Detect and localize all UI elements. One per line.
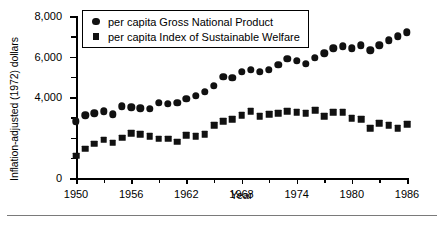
data-point: [265, 66, 272, 73]
data-point: [146, 105, 153, 112]
data-point: [192, 133, 199, 140]
data-point: [238, 68, 245, 75]
y-axis-major-tick: 8,000: [70, 16, 76, 18]
x-axis-minor-tick: [159, 178, 160, 183]
data-point: [404, 121, 411, 128]
x-axis-major-tick: [352, 178, 354, 184]
y-axis-minor-tick: [71, 77, 76, 78]
data-point: [385, 122, 392, 129]
data-point: [376, 42, 383, 49]
data-point: [257, 113, 264, 120]
x-axis-minor-tick: [269, 178, 270, 183]
data-point: [357, 42, 364, 49]
data-point: [82, 145, 89, 152]
data-point: [201, 88, 208, 95]
data-point: [219, 73, 226, 80]
x-axis-minor-tick: [214, 178, 215, 183]
legend-circle-icon: [89, 18, 103, 25]
y-axis-major-tick: 6,000: [70, 57, 76, 59]
data-point: [211, 122, 218, 129]
data-point: [266, 111, 273, 118]
y-axis-minor-tick: [71, 36, 76, 37]
y-axis-tick-label: 0: [56, 172, 62, 184]
data-point: [303, 110, 310, 117]
data-point: [100, 136, 107, 143]
data-point: [395, 125, 402, 132]
data-point: [118, 102, 125, 109]
data-point: [358, 116, 365, 123]
data-point: [367, 47, 374, 54]
y-axis-tick-label: 6,000: [34, 51, 62, 63]
footer-divider: [7, 215, 437, 216]
chart-legend: per capita Gross National Product per ca…: [82, 10, 309, 48]
data-point: [339, 43, 346, 50]
legend-item: per capita Gross National Product: [89, 14, 300, 29]
data-point: [312, 107, 319, 114]
data-point: [72, 118, 79, 125]
y-axis-major-tick: 4,000: [70, 97, 76, 99]
data-point: [109, 139, 116, 146]
data-point: [100, 107, 107, 114]
y-axis-tick-label: 4,000: [34, 91, 62, 103]
data-point: [119, 134, 126, 141]
data-point: [339, 109, 346, 116]
data-point: [302, 60, 309, 67]
data-point: [91, 109, 98, 116]
y-axis-title: Inflation-adjusted (1972) dollars: [4, 16, 24, 202]
data-point: [174, 138, 181, 145]
data-point: [349, 115, 356, 122]
data-point: [128, 130, 135, 137]
chart-figure: Inflation-adjusted (1972) dollars 04,000…: [0, 0, 444, 227]
data-point: [330, 109, 337, 116]
data-point: [376, 120, 383, 127]
x-axis-major-tick: [407, 178, 409, 184]
data-point: [183, 95, 190, 102]
data-point: [73, 152, 80, 159]
data-point: [155, 135, 162, 142]
data-point: [137, 131, 144, 138]
data-point: [284, 108, 291, 115]
legend-square-icon: [89, 33, 103, 40]
data-point: [183, 132, 190, 139]
data-point: [275, 61, 282, 68]
data-point: [173, 99, 180, 106]
data-point: [367, 125, 374, 132]
x-axis-minor-tick: [379, 178, 380, 183]
data-point: [403, 28, 410, 35]
data-point: [275, 110, 282, 117]
x-axis-title: Year: [76, 189, 407, 201]
data-point: [201, 131, 208, 138]
data-point: [385, 37, 392, 44]
data-point: [192, 92, 199, 99]
y-axis-tick-label: 8,000: [34, 10, 62, 22]
x-axis-minor-tick: [104, 178, 105, 183]
data-point: [311, 54, 318, 61]
y-axis-minor-tick: [71, 138, 76, 139]
data-point: [146, 133, 153, 140]
data-point: [91, 140, 98, 147]
data-point: [81, 112, 88, 119]
data-point: [155, 99, 162, 106]
data-point: [293, 109, 300, 116]
data-point: [238, 112, 245, 119]
legend-item: per capita Index of Sustainable Welfare: [89, 29, 300, 44]
data-point: [330, 45, 337, 52]
data-point: [394, 33, 401, 40]
legend-item-label: per capita Gross National Product: [108, 16, 273, 28]
data-point: [127, 103, 134, 110]
data-point: [321, 113, 328, 120]
data-point: [109, 111, 116, 118]
x-axis-major-tick: [131, 178, 133, 184]
x-axis-major-tick: [186, 178, 188, 184]
data-point: [321, 50, 328, 57]
data-point: [247, 108, 254, 115]
data-point: [247, 66, 254, 73]
data-point: [220, 118, 227, 125]
data-point: [256, 68, 263, 75]
data-point: [165, 135, 172, 142]
data-point: [210, 82, 217, 89]
data-point: [229, 74, 236, 81]
data-point: [348, 45, 355, 52]
data-point: [284, 55, 291, 62]
data-point: [293, 57, 300, 64]
